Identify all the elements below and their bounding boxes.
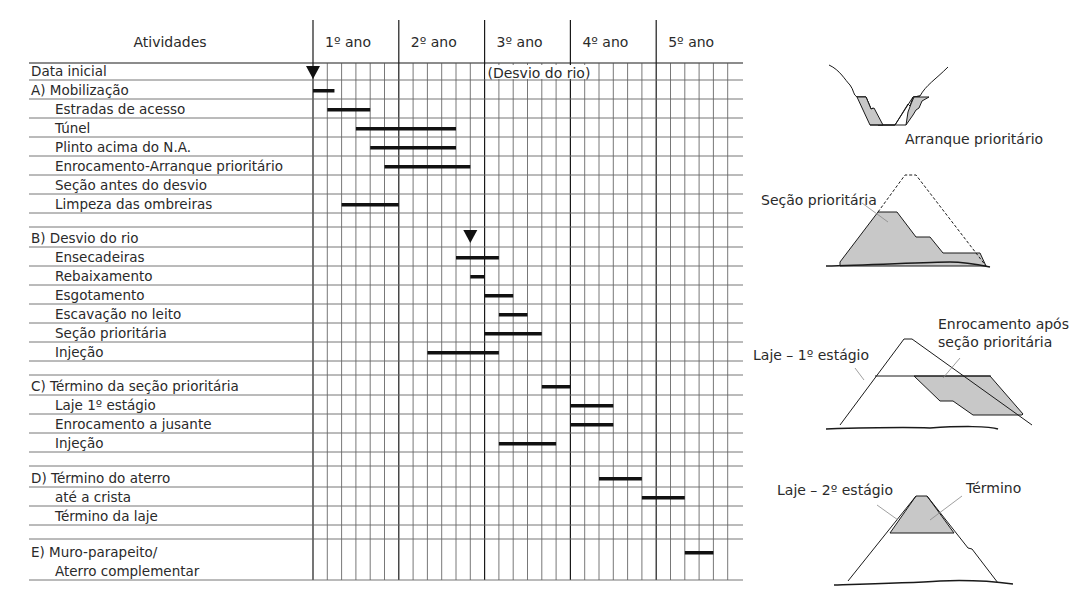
task-bar xyxy=(427,351,499,355)
year-label-2: 2º ano xyxy=(411,34,457,50)
activity-label: E) Muro-parapeito/ xyxy=(31,544,158,560)
activity-label: Injeção xyxy=(55,344,104,360)
gantt-row: até a crista xyxy=(29,489,743,506)
gantt-row: Injeção xyxy=(29,435,743,452)
task-bar xyxy=(599,477,642,481)
task-bar xyxy=(370,146,456,150)
activity-label: Rebaixamento xyxy=(55,268,153,284)
gantt-row: Término da laje xyxy=(29,508,743,525)
diagram-secao-prioritaria: Seção prioritária xyxy=(761,175,990,267)
annotation-desvio-do-rio: (Desvio do rio) xyxy=(487,65,590,81)
gantt-header: Atividades1º ano2º ano3º ano4º ano5º ano xyxy=(29,20,743,63)
task-bar xyxy=(485,294,514,298)
task-bar xyxy=(327,108,370,112)
gantt-row: Aterro complementar xyxy=(29,563,743,580)
gantt-row: Enrocamento a jusante xyxy=(29,416,743,433)
activity-label: Seção antes do desvio xyxy=(55,177,207,193)
gantt-row: Estradas de acesso xyxy=(29,101,743,118)
gantt-row: Ensecadeiras xyxy=(29,249,743,266)
task-bar xyxy=(385,165,471,169)
activity-label: B) Desvio do rio xyxy=(31,230,139,246)
task-bar xyxy=(499,313,528,317)
label-laje-1-estagio: Laje – 1º estágio xyxy=(753,347,869,363)
diagram-arranque-prioritario: Arranque prioritário xyxy=(829,65,1043,147)
gantt-row: D) Término do aterro xyxy=(29,470,743,487)
milestone-arrow-icon xyxy=(463,230,477,243)
gantt-row: Plinto acima do N.A. xyxy=(29,139,743,156)
gantt-grid xyxy=(313,63,728,580)
activity-label: Esgotamento xyxy=(55,287,145,303)
activity-label: Injeção xyxy=(55,435,104,451)
activity-label: Enrocamento-Arranque prioritário xyxy=(55,158,283,174)
task-bar xyxy=(685,551,714,555)
activity-label: Aterro complementar xyxy=(55,563,200,579)
activity-label: D) Término do aterro xyxy=(31,470,170,486)
activity-label: Plinto acima do N.A. xyxy=(55,139,191,155)
label-secao-prioritaria-2: seção prioritária xyxy=(938,334,1052,350)
dam-section-diagrams: Arranque prioritário Seção prioritária L… xyxy=(750,0,1091,612)
gantt-row: Esgotamento xyxy=(29,287,743,304)
activity-label: Ensecadeiras xyxy=(55,249,145,265)
diagram-laje-1-estagio: Laje – 1º estágio Enrocamento após seção… xyxy=(753,316,1069,429)
activity-label: C) Término da seção prioritária xyxy=(31,378,239,394)
task-bar xyxy=(456,256,499,260)
activity-label: até a crista xyxy=(55,489,131,505)
year-label-5: 5º ano xyxy=(668,34,714,50)
gantt-row: Seção prioritária xyxy=(29,325,743,342)
year-label-4: 4º ano xyxy=(582,34,628,50)
activity-label: Enrocamento a jusante xyxy=(55,416,211,432)
activity-label: Laje 1º estágio xyxy=(55,397,156,413)
gantt-row: Seção antes do desvio xyxy=(29,177,743,194)
task-bar xyxy=(570,423,613,427)
gantt-row: Túnel xyxy=(29,120,743,137)
task-bar xyxy=(642,496,685,500)
task-bar xyxy=(499,442,556,446)
gantt-row: Data inicial xyxy=(29,63,743,80)
task-bar xyxy=(470,275,484,279)
activity-label: Túnel xyxy=(54,120,90,136)
milestone-arrow-icon xyxy=(306,66,320,79)
activity-label: Escavação no leito xyxy=(55,306,181,322)
activities-header: Atividades xyxy=(133,34,206,50)
activity-label: Limpeza das ombreiras xyxy=(55,196,212,212)
year-label-3: 3º ano xyxy=(497,34,543,50)
gantt-row: E) Muro-parapeito/ xyxy=(31,544,713,560)
task-bar xyxy=(342,203,399,207)
activity-label: Término da laje xyxy=(54,508,158,524)
label-secao-prioritaria: Seção prioritária xyxy=(761,192,877,208)
gantt-row: A) Mobilização xyxy=(29,82,743,99)
task-bar xyxy=(485,332,542,336)
gantt-row: B) Desvio do rio xyxy=(29,230,743,247)
label-termino: Término xyxy=(965,480,1021,496)
label-laje-2-estagio: Laje – 2º estágio xyxy=(777,482,893,498)
gantt-row: Enrocamento-Arranque prioritário xyxy=(29,158,743,175)
task-bar xyxy=(313,89,334,93)
gantt-row: C) Término da seção prioritária xyxy=(29,378,743,395)
activity-label: Estradas de acesso xyxy=(55,101,185,117)
gantt-row: Injeção xyxy=(29,344,743,361)
activity-label: Seção prioritária xyxy=(55,325,167,341)
gantt-row: Rebaixamento xyxy=(29,268,743,285)
task-bar xyxy=(542,385,571,389)
activity-label: Data inicial xyxy=(31,63,107,79)
gantt-row: Escavação no leito xyxy=(29,306,743,323)
task-bar xyxy=(356,127,456,131)
label-arranque-prioritario: Arranque prioritário xyxy=(905,131,1043,147)
label-enrocamento-apos: Enrocamento após xyxy=(938,316,1069,332)
diagram-laje-2-estagio: Laje – 2º estágio Término xyxy=(777,480,1021,585)
gantt-row: Laje 1º estágio xyxy=(29,397,743,414)
gantt-row: Limpeza das ombreiras xyxy=(29,196,743,213)
gantt-chart: Atividades1º ano2º ano3º ano4º ano5º ano… xyxy=(0,0,750,612)
task-bar xyxy=(570,404,613,408)
year-label-1: 1º ano xyxy=(325,34,371,50)
activity-label: A) Mobilização xyxy=(31,82,129,98)
